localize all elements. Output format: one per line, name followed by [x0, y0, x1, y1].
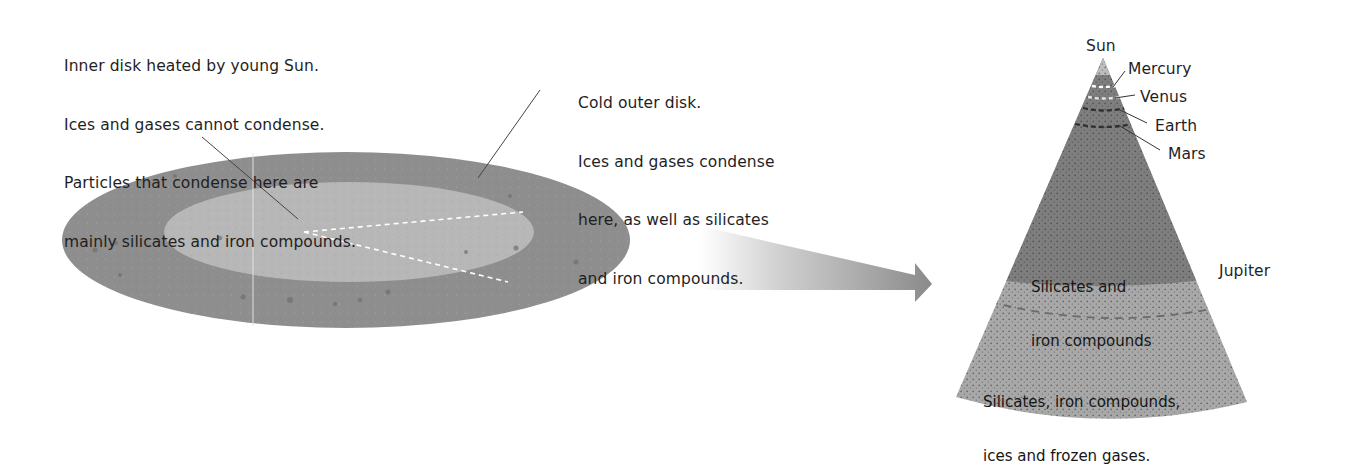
outer-zone-label: Silicates, iron compounds, ices and froz… — [983, 357, 1180, 468]
outer-annotation-line: here, as well as silicates — [578, 211, 775, 231]
outer-annotation-line: and iron compounds. — [578, 270, 775, 290]
zone-label-line: Silicates and — [1031, 278, 1152, 296]
inner-disk-annotation: Inner disk heated by young Sun. Ices and… — [64, 18, 356, 272]
outer-leader-line — [478, 90, 540, 178]
planet-label-jupiter: Jupiter — [1219, 262, 1270, 282]
planet-label-mercury: Mercury — [1128, 60, 1192, 80]
outer-annotation-line: Ices and gases condense — [578, 153, 775, 173]
sun-label: Sun — [1086, 37, 1116, 57]
inner-annotation-line: Inner disk heated by young Sun. — [64, 57, 356, 77]
planet-label-mars: Mars — [1168, 145, 1206, 165]
outer-annotation-line: Cold outer disk. — [578, 94, 775, 114]
zone-label-line: Silicates, iron compounds, — [983, 393, 1180, 411]
inner-annotation-line: mainly silicates and iron compounds. — [64, 233, 356, 253]
zone-label-line: iron compounds — [1031, 332, 1152, 350]
zone-label-line: ices and frozen gases. — [983, 447, 1180, 465]
outer-disk-annotation: Cold outer disk. Ices and gases condense… — [578, 55, 775, 309]
inner-zone-label: Silicates and iron compounds — [1031, 242, 1152, 368]
planet-label-earth: Earth — [1155, 117, 1197, 137]
planet-label-venus: Venus — [1140, 88, 1187, 108]
inner-annotation-line: Ices and gases cannot condense. — [64, 116, 356, 136]
inner-annotation-line: Particles that condense here are — [64, 174, 356, 194]
